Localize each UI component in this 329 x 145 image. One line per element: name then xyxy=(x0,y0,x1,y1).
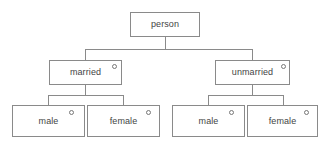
circle-outline-icon xyxy=(69,110,74,115)
node-person-label: person xyxy=(151,20,179,29)
edge-unmarried-to-male xyxy=(208,95,209,105)
edge-root-to-married xyxy=(85,49,86,60)
node-married-female-label: female xyxy=(110,117,138,126)
node-unmarried-label: unmarried xyxy=(232,68,273,77)
edge-married-stem xyxy=(85,85,86,95)
node-unmarried-male-label: male xyxy=(199,117,219,126)
node-married-label: married xyxy=(70,68,101,77)
edge-root-stem xyxy=(165,37,166,49)
node-married-female[interactable]: female xyxy=(87,105,160,137)
node-unmarried-male[interactable]: male xyxy=(172,105,245,137)
edge-married-to-male xyxy=(48,95,49,105)
edge-root-to-unmarried xyxy=(252,49,253,60)
edge-root-bar xyxy=(85,49,253,50)
circle-outline-icon xyxy=(112,64,117,69)
edge-unmarried-bar xyxy=(208,95,283,96)
node-married-male-label: male xyxy=(39,117,59,126)
edge-unmarried-to-female xyxy=(283,95,284,105)
edge-unmarried-stem xyxy=(252,85,253,95)
node-unmarried-female[interactable]: female xyxy=(247,105,318,137)
taxonomy-diagram: person married unmarried male female mal… xyxy=(0,0,329,145)
circle-outline-icon xyxy=(281,64,286,69)
node-unmarried-female-label: female xyxy=(269,117,297,126)
circle-outline-icon xyxy=(146,110,151,115)
edge-married-to-female xyxy=(123,95,124,105)
edge-married-bar xyxy=(48,95,124,96)
circle-outline-icon xyxy=(229,110,234,115)
node-unmarried[interactable]: unmarried xyxy=(215,60,290,85)
node-married[interactable]: married xyxy=(49,60,122,85)
circle-outline-icon xyxy=(304,110,309,115)
node-person[interactable]: person xyxy=(130,12,200,37)
node-married-male[interactable]: male xyxy=(12,105,85,137)
